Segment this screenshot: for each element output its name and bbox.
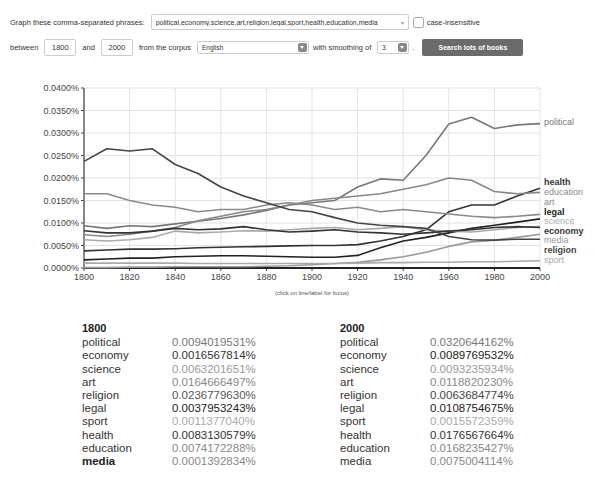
table-row[interactable]: sport0.0015572359%	[340, 415, 514, 428]
table-row[interactable]: religion0.0063684774%	[340, 389, 514, 402]
table-row-name: science	[82, 363, 172, 376]
phrases-label: Graph these comma-separated phrases:	[10, 18, 145, 27]
corpus-value: English	[202, 44, 223, 51]
table-row-name: sport	[340, 415, 430, 428]
table-row-name: art	[82, 376, 172, 389]
table-year-heading: 2000	[340, 322, 514, 335]
x-tick-label: 1800	[74, 272, 94, 282]
table-row-value: 0.0164666497%	[172, 376, 256, 389]
table-row-name: media	[340, 455, 430, 468]
table-row[interactable]: education0.0168235427%	[340, 442, 514, 455]
table-row[interactable]: economy0.0089769532%	[340, 349, 514, 362]
focus-hint: (click on line/label for focus)	[0, 290, 600, 296]
smoothing-value: 3	[382, 44, 386, 51]
smoothing-label: with smoothing of	[313, 43, 371, 52]
x-tick-label: 1880	[256, 272, 276, 282]
phrases-value: political,economy,science,art,religion,l…	[156, 19, 378, 26]
series-label-media[interactable]: media	[544, 235, 569, 245]
table-row[interactable]: religion0.0236779630%	[82, 389, 256, 402]
table-row[interactable]: health0.0083130579%	[82, 429, 256, 442]
table-row-name: education	[82, 442, 172, 455]
table-row[interactable]: legal0.0108754675%	[340, 402, 514, 415]
table-row[interactable]: science0.0063201651%	[82, 363, 256, 376]
case-insensitive-checkbox[interactable]	[413, 17, 424, 28]
table-row[interactable]: political0.0320644162%	[340, 336, 514, 349]
range-row: between 1800 and 2000 from the corpus En…	[10, 39, 523, 56]
table-row[interactable]: economy0.0016567814%	[82, 349, 256, 362]
table-row-name: economy	[82, 349, 172, 362]
table-row-value: 0.0074172288%	[172, 442, 256, 455]
smoothing-select[interactable]: 3	[377, 41, 409, 54]
table-row-value: 0.0015572359%	[430, 415, 514, 428]
table-row[interactable]: media0.0075004114%	[340, 455, 514, 468]
y-tick-label: 0.0400%	[43, 83, 79, 93]
table-row[interactable]: art0.0164666497%	[82, 376, 256, 389]
series-label-religion[interactable]: religion	[544, 245, 577, 255]
x-tick-label: 1960	[439, 272, 459, 282]
select-arrow-icon	[398, 43, 407, 52]
period-text: .	[412, 43, 414, 52]
series-label-science[interactable]: science	[544, 216, 575, 226]
table-row-value: 0.0118820230%	[430, 376, 513, 389]
table-row-value: 0.0063684774%	[430, 389, 514, 402]
table-row-value: 0.0093235934%	[430, 363, 514, 376]
y-tick-label: 0.0300%	[43, 128, 79, 138]
y-tick-label: 0.0200%	[43, 173, 79, 183]
ngram-chart: 0.0000%0.0050%0.0100%0.0150%0.0200%0.025…	[0, 76, 600, 291]
table-1800: 1800political0.0094019531%economy0.00165…	[82, 322, 256, 468]
table-row-value: 0.0011377040%	[172, 415, 255, 428]
series-label-political[interactable]: political	[544, 117, 574, 127]
y-tick-label: 0.0350%	[43, 106, 79, 116]
table-row-name: media	[82, 455, 172, 468]
table-row-name: legal	[340, 402, 430, 415]
select-arrow-icon	[298, 43, 307, 52]
phrases-input[interactable]: political,economy,science,art,religion,l…	[151, 14, 409, 30]
y-tick-label: 0.0050%	[43, 241, 79, 251]
table-2000: 2000political0.0320644162%economy0.00897…	[340, 322, 514, 468]
x-tick-label: 2000	[530, 272, 550, 282]
dropdown-arrow-icon[interactable]: ▾	[398, 19, 404, 26]
table-row-name: political	[340, 336, 430, 349]
table-row-value: 0.0016567814%	[172, 349, 256, 362]
table-row[interactable]: sport0.0011377040%	[82, 415, 256, 428]
x-tick-label: 1940	[393, 272, 413, 282]
table-row-name: health	[340, 429, 430, 442]
table-row-value: 0.0168235427%	[430, 442, 514, 455]
table-row-name: art	[340, 376, 430, 389]
table-row[interactable]: media0.0001392834%	[82, 455, 256, 468]
series-label-sport[interactable]: sport	[544, 255, 565, 265]
and-label: and	[82, 43, 95, 52]
table-row[interactable]: art0.0118820230%	[340, 376, 514, 389]
corpus-select[interactable]: English	[197, 41, 309, 54]
table-row-value: 0.0176567664%	[430, 429, 514, 442]
end-year-input[interactable]: 2000	[101, 39, 133, 56]
table-row-name: health	[82, 429, 172, 442]
y-tick-label: 0.0100%	[43, 218, 79, 228]
table-row-value: 0.0083130579%	[172, 429, 256, 442]
series-label-art[interactable]: art	[544, 197, 555, 207]
series-label-health[interactable]: health	[544, 177, 571, 187]
series-label-education[interactable]: education	[544, 187, 583, 197]
table-row-name: economy	[340, 349, 430, 362]
y-tick-label: 0.0250%	[43, 151, 79, 161]
x-tick-label: 1900	[302, 272, 322, 282]
table-row-value: 0.0108754675%	[430, 402, 514, 415]
table-row-name: religion	[340, 389, 430, 402]
x-tick-label: 1920	[348, 272, 368, 282]
table-row[interactable]: political0.0094019531%	[82, 336, 256, 349]
table-row[interactable]: legal0.0037953243%	[82, 402, 256, 415]
phrases-row: Graph these comma-separated phrases: pol…	[10, 14, 480, 30]
table-row-value: 0.0236779630%	[172, 389, 256, 402]
table-row-value: 0.0320644162%	[430, 336, 514, 349]
table-row[interactable]: science0.0093235934%	[340, 363, 514, 376]
start-year-input[interactable]: 1800	[44, 39, 76, 56]
between-label: between	[10, 43, 38, 52]
table-year-heading: 1800	[82, 322, 256, 335]
x-tick-label: 1980	[484, 272, 504, 282]
table-row-value: 0.0001392834%	[172, 455, 256, 468]
search-button[interactable]: Search lots of books	[422, 39, 523, 56]
table-row-name: political	[82, 336, 172, 349]
table-row[interactable]: education0.0074172288%	[82, 442, 256, 455]
table-row[interactable]: health0.0176567664%	[340, 429, 514, 442]
table-row-name: legal	[82, 402, 172, 415]
